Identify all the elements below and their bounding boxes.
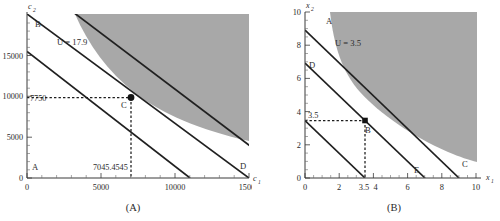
x-value-label-a: 7045.4545 — [93, 163, 128, 172]
x-tick-label-b-2: 4 — [373, 183, 378, 192]
point-label-a-d: D — [240, 161, 246, 171]
svg-text:1: 1 — [491, 178, 494, 184]
svg-text:c: c — [28, 2, 32, 11]
x-tick-label-b-5: 10 — [472, 183, 480, 192]
point-label-b-e: E — [414, 165, 419, 175]
y-tick-label-b-3: 6 — [297, 74, 301, 83]
svg-text:2: 2 — [311, 6, 314, 12]
y-tick-label-b-0: 0 — [297, 174, 301, 183]
x-axis-label-b: x 1 — [485, 173, 494, 184]
x-axis-ticks-b — [305, 173, 476, 178]
utility-label-a: U = 17.9 — [57, 37, 87, 47]
budget-line-inner-b — [305, 121, 365, 179]
figure-container: 0 5000 10000 15000 0 5000 10000 15000 c … — [0, 0, 500, 221]
panel-caption-b: (B) — [387, 202, 402, 214]
point-label-a-a: A — [32, 162, 39, 172]
x-tick-label-b-1: 2 — [337, 183, 341, 192]
y-tick-label-b-1: 2 — [297, 141, 301, 150]
y-tick-label-b-2: 4 — [297, 108, 302, 117]
y-value-label-b: 3.5 — [308, 111, 318, 120]
y-axis-label-b: x 2 — [305, 1, 314, 12]
y-tick-label-a-0: 0 — [19, 174, 23, 183]
point-label-b-c: C — [462, 159, 468, 169]
y-tick-label-a-2: 10000 — [3, 92, 23, 101]
panel-caption-a: (A) — [126, 202, 141, 214]
optimum-point-b — [362, 118, 368, 124]
y-tick-label-a-1: 5000 — [7, 133, 23, 142]
svg-text:x: x — [485, 173, 490, 182]
y-tick-label-b-4: 8 — [297, 41, 301, 50]
x-tick-label-b-0: 0 — [303, 183, 307, 192]
point-label-a-b: B — [35, 19, 41, 29]
y-axis-label-a: c 2 — [28, 2, 36, 13]
point-label-b-a: A — [326, 16, 333, 26]
point-label-a-c: C — [121, 100, 127, 110]
chart-panel-b: 0 2 4 6 8 10 0 2 4 6 8 10 3.5 3.5 x 2 x — [248, 0, 500, 221]
x-axis-ticks-a — [27, 173, 249, 178]
y-value-label-a: 7750 — [30, 94, 46, 103]
chart-b-svg: 0 2 4 6 8 10 0 2 4 6 8 10 3.5 3.5 x 2 x — [248, 0, 500, 221]
x-value-label-b: 3.5 — [359, 183, 369, 192]
shaded-preferred-region-b — [330, 12, 477, 162]
x-tick-label-b-4: 8 — [440, 183, 444, 192]
optimum-point-c — [128, 94, 135, 101]
x-tick-label-a-0: 0 — [25, 183, 29, 192]
chart-a-svg: 0 5000 10000 15000 0 5000 10000 15000 c … — [0, 0, 252, 221]
y-axis-ticks-b — [305, 12, 310, 178]
y-tick-label-b-5: 10 — [293, 8, 301, 17]
x-tick-label-b-3: 6 — [406, 183, 410, 192]
x-tick-label-a-1: 5000 — [93, 183, 109, 192]
chart-panel-a: 0 5000 10000 15000 0 5000 10000 15000 c … — [0, 0, 252, 221]
svg-text:2: 2 — [33, 7, 36, 13]
utility-label-b: U = 3.5 — [335, 38, 361, 48]
svg-text:x: x — [305, 1, 310, 10]
y-tick-label-a-3: 15000 — [3, 52, 23, 61]
point-label-b-b: B — [365, 125, 371, 135]
x-tick-label-a-2: 10000 — [165, 183, 185, 192]
point-label-b-d: D — [309, 60, 315, 70]
